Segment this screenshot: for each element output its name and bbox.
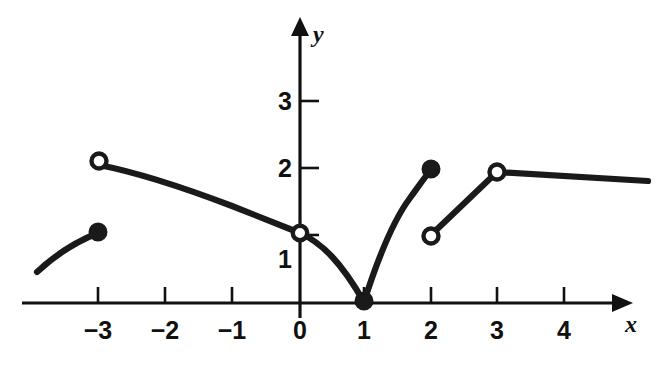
open-circle-x-0	[293, 226, 307, 240]
y-tick-label-2: 2	[278, 156, 292, 181]
x-axis-arrow-icon	[612, 294, 633, 312]
x-tick-label-neg3: −3	[84, 318, 113, 343]
segment-rising	[431, 172, 497, 235]
curve-left-branch	[37, 233, 98, 272]
open-circle-x-neg3	[92, 154, 107, 169]
x-tick-label-neg2: −2	[151, 318, 180, 343]
x-tick-label-4: 4	[557, 318, 571, 343]
x-tick-label-2: 2	[424, 318, 438, 343]
open-circle-x-3	[490, 165, 505, 180]
y-tick-label-3: 3	[278, 89, 292, 114]
y-axis-arrow-icon	[291, 17, 309, 36]
filled-dot-x-1	[356, 293, 373, 310]
curve-main-descending	[99, 165, 364, 302]
y-tick-marks	[300, 101, 319, 235]
x-axis-label: x	[625, 312, 637, 336]
open-circle-x-2	[424, 229, 439, 244]
y-axis-label: y	[313, 22, 324, 46]
filled-dot-x-neg3	[90, 224, 107, 241]
x-tick-label-neg1: −1	[218, 318, 247, 343]
segment-tail	[497, 172, 648, 181]
x-tick-label-1: 1	[357, 318, 371, 343]
x-tick-label-3: 3	[490, 318, 504, 343]
y-tick-label-1: 1	[278, 247, 292, 272]
x-tick-label-0: 0	[293, 318, 307, 343]
curve-main-ascending	[364, 170, 431, 302]
graph-figure: −3 −2 −1 0 1 2 3 4 1 2 3 y x	[0, 0, 657, 371]
filled-dot-x-2	[423, 161, 440, 178]
x-tick-marks	[98, 287, 564, 303]
